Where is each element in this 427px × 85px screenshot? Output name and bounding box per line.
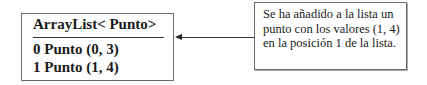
- annotation-note: Se ha añadido a la lista un punto con lo…: [254, 2, 407, 70]
- annotation-text: Se ha añadido a la lista un punto con lo…: [263, 7, 405, 51]
- title-divider: [33, 37, 164, 38]
- arraylist-title: ArrayList< Punto>: [33, 16, 156, 33]
- list-item-0: 0 Punto (0, 3): [33, 41, 119, 58]
- connector-arrow: [180, 37, 254, 38]
- list-item-1: 1 Punto (1, 4): [33, 59, 119, 76]
- arraylist-box: ArrayList< Punto> 0 Punto (0, 3) 1 Punto…: [21, 13, 174, 81]
